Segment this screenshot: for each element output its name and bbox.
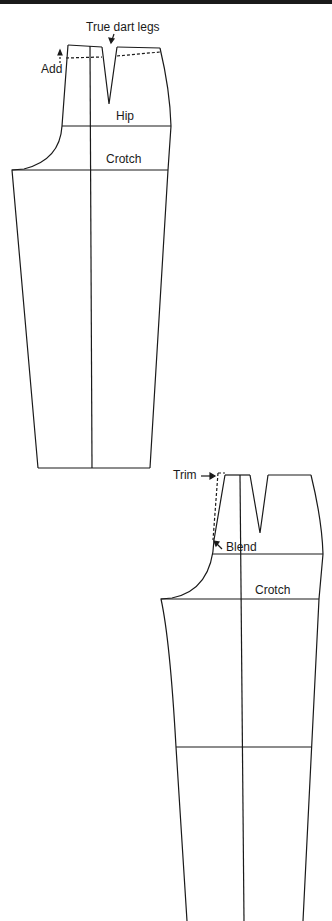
label-bottom-crotch: Crotch <box>255 584 290 596</box>
top-pants-pattern <box>12 34 171 468</box>
label-true-dart-legs: True dart legs <box>86 21 160 33</box>
pattern-drawing <box>0 0 332 921</box>
label-hip: Hip <box>116 110 134 122</box>
label-blend: Blend <box>226 541 257 553</box>
bottom-side-seam-right <box>303 475 323 921</box>
bottom-dart <box>250 475 268 533</box>
label-trim: Trim <box>173 469 197 481</box>
top-waist-right <box>117 47 160 48</box>
label-top-crotch: Crotch <box>106 153 141 165</box>
top-side-seam-right <box>150 48 171 468</box>
top-crotch-curve <box>12 45 68 468</box>
top-waist-left <box>68 45 102 47</box>
top-add-dashed <box>66 52 160 58</box>
top-dart <box>102 47 117 104</box>
top-grainline <box>90 46 92 468</box>
label-add: Add <box>41 63 62 75</box>
